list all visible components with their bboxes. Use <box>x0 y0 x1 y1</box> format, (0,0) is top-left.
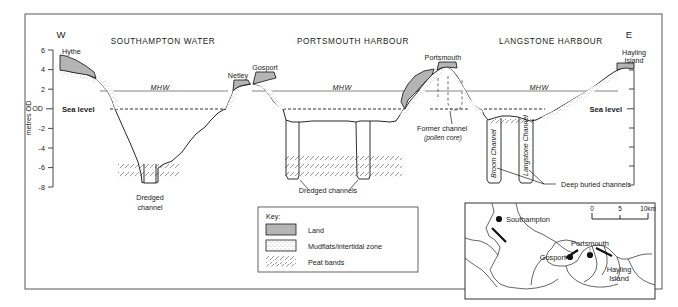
section-title-portsmouth-harbour: PORTSMOUTH HARBOUR <box>297 37 409 46</box>
land-block-portsmouth-west <box>401 69 434 109</box>
legend: Key: Land Mudflats/intertidal zone Peat … <box>258 207 418 272</box>
legend-swatch-land <box>266 224 296 235</box>
section-title-langstone-harbour: LANGSTONE HARBOUR <box>499 37 603 46</box>
place-label-netley: Netley <box>228 71 249 80</box>
axis-tick-minus8: -8 <box>39 183 45 192</box>
legend-label-mudflats: Mudflats/intertidal zone <box>308 242 382 251</box>
axis-tick-minus2: -2 <box>39 124 45 133</box>
land-block-netley <box>233 80 250 91</box>
section-titles: W E SOUTHAMPTON WATER PORTSMOUTH HARBOUR… <box>57 29 633 46</box>
inset-map: Southampton Portsmouth Gosport Hayling I… <box>465 203 656 299</box>
place-label-hythe: Hythe <box>62 47 81 56</box>
annotation-dredged-channels: Dredged channels <box>299 186 358 195</box>
annotation-former-channel-sub: (pollen core) <box>424 134 462 142</box>
land-block-portsmouth <box>437 62 457 70</box>
left-axis: 6 4 2 OD -2 -4 -6 -8 metres OD <box>24 46 53 192</box>
land-block-gosport <box>253 72 276 84</box>
map-label-portsmouth: Portsmouth <box>571 239 609 248</box>
peat-bands <box>118 119 535 176</box>
axis-tick-4: 4 <box>41 65 45 74</box>
annotation-former-channel: Former channel <box>417 124 468 133</box>
annotations: Dredged channel Dredged channels Former … <box>136 111 631 212</box>
sea-level-label-right: Sea level <box>589 105 622 114</box>
place-labels: Hythe Netley Gosport Portsmouth Hayling … <box>62 47 646 80</box>
channel-name-langstone: Langstone Channel <box>522 115 530 176</box>
axis-tick-2: 2 <box>41 85 45 94</box>
map-scale-tick-10: 10km <box>640 205 656 212</box>
axis-tick-minus4: -4 <box>39 144 45 153</box>
map-label-hayling-island-line1: Hayling <box>607 265 632 274</box>
annotation-deep-buried-channels: Deep buried channels <box>561 180 631 189</box>
place-label-portsmouth: Portsmouth <box>425 53 462 62</box>
mhw-lines: MHW MHW MHW <box>100 83 618 92</box>
mhw-label-1: MHW <box>150 83 170 92</box>
legend-label-peat: Peat bands <box>308 258 345 267</box>
legend-label-land: Land <box>308 226 324 235</box>
sea-level-label-left: Sea level <box>62 105 95 114</box>
map-scale-tick-5: 5 <box>618 205 622 212</box>
channel-names: Broom Channel Langstone Channel <box>490 115 530 178</box>
map-dot-gosport <box>567 254 573 260</box>
axis-tick-minus6: -6 <box>39 163 45 172</box>
map-scale-tick-0: 0 <box>590 205 594 212</box>
map-dot-southampton <box>496 216 502 222</box>
legend-swatch-mudflats <box>266 240 296 251</box>
place-label-gosport: Gosport <box>252 63 278 72</box>
compass-west: W <box>57 29 66 40</box>
mhw-label-3: MHW <box>529 83 549 92</box>
mudflat-zones <box>60 67 619 121</box>
axis-tick-od: OD <box>32 104 43 113</box>
map-label-hayling-island-line2: Island <box>609 274 629 283</box>
axis-title: metres OD <box>24 101 33 136</box>
annotation-dredged-channel-line1: Dredged <box>136 193 164 202</box>
map-label-southampton: Southampton <box>506 215 550 224</box>
compass-east: E <box>626 29 632 40</box>
cross-section-figure: 6 4 2 OD -2 -4 -6 -8 metres OD Sea level <box>0 0 678 307</box>
axis-tick-6: 6 <box>41 46 45 55</box>
place-label-hayling-island-line2: Island <box>624 56 643 65</box>
section-title-southampton-water: SOUTHAMPTON WATER <box>111 37 216 46</box>
legend-title: Key: <box>266 212 280 221</box>
mhw-label-2: MHW <box>332 83 352 92</box>
map-label-gosport: Gosport <box>540 253 566 262</box>
annotation-dredged-channel-line2: channel <box>137 203 163 212</box>
channel-name-broom: Broom Channel <box>490 129 497 178</box>
